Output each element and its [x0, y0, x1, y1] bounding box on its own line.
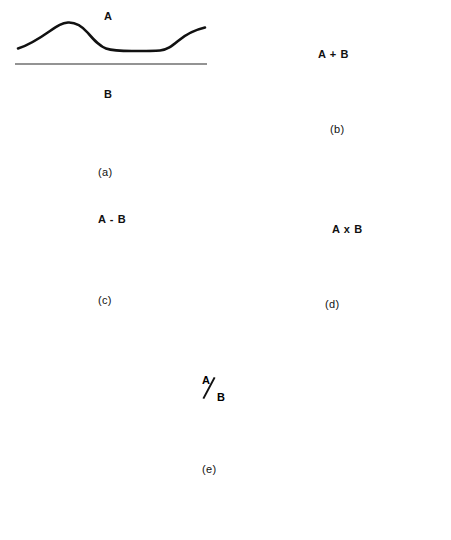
figure-canvas: [0, 0, 451, 540]
curve-a-path: [18, 22, 205, 51]
panel-a-curve-a: [15, 22, 207, 64]
panel-label-b: (b): [330, 123, 344, 135]
figure-root: A B (a) A + B (b) A - B (c) A x B (d): [0, 0, 451, 540]
label-curve-a: A: [104, 10, 113, 22]
panel-label-e: (e): [202, 463, 216, 475]
label-sum: A + B: [318, 48, 349, 60]
label-difference: A - B: [98, 213, 126, 225]
label-curve-b: B: [104, 88, 113, 100]
panel-label-c: (c): [98, 294, 112, 306]
panel-label-d: (d): [325, 298, 339, 310]
label-quotient: A B: [200, 374, 240, 408]
panel-label-a: (a): [98, 166, 112, 178]
label-product: A x B: [332, 223, 363, 235]
label-quotient-denominator: B: [217, 391, 225, 403]
